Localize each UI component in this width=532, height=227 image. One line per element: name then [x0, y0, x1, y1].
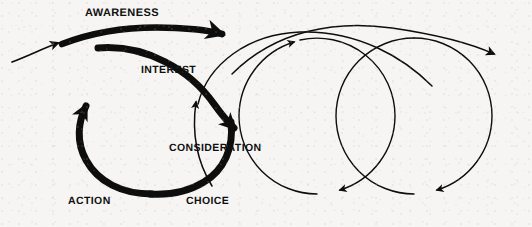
label-action: ACTION [68, 196, 111, 207]
loop-second-upper [300, 38, 395, 190]
label-choice: CHOICE [186, 196, 229, 207]
label-interest: INTEREST [141, 65, 196, 76]
awareness-stroke [62, 28, 222, 44]
diagram-canvas: AWARENESS INTEREST CONSIDERATION ACTION … [0, 0, 532, 227]
action-stroke [79, 106, 152, 194]
label-awareness: AWARENESS [85, 8, 159, 19]
label-consideration: CONSIDERATION [169, 143, 262, 154]
consideration-choice-stroke [150, 122, 232, 194]
thin-sweep-right [198, 32, 432, 104]
loop-third-upper [414, 38, 492, 190]
interest-stroke [98, 48, 234, 128]
loop-second-lower [239, 42, 317, 194]
loop-diagram-artwork [0, 0, 532, 227]
entry-stroke [12, 43, 58, 62]
